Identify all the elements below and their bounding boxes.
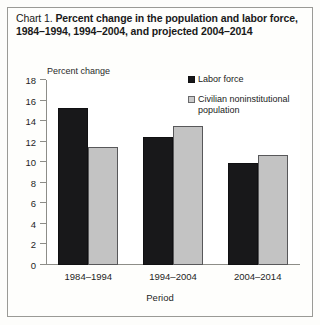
chart-title-text: Percent change in the population and lab… — [16, 12, 298, 37]
x-axis-tick-label: 1984–1994 — [65, 271, 113, 282]
bar — [228, 163, 258, 265]
y-axis-tick: 18 — [40, 79, 46, 80]
y-axis-tick: 12 — [40, 141, 46, 142]
chart-title: Chart 1. Percent change in the populatio… — [16, 12, 298, 39]
bar — [58, 108, 88, 265]
x-axis-tick-label: 1994–2004 — [149, 271, 197, 282]
legend-item-label: Labor force — [198, 74, 244, 85]
y-axis-tick: 0 — [40, 264, 46, 265]
y-axis-tick-label: 0 — [31, 260, 36, 271]
bar — [143, 137, 173, 265]
y-axis-tick-label: 8 — [31, 177, 36, 188]
y-axis-tick: 6 — [40, 202, 46, 203]
y-axis-tick: 16 — [40, 100, 46, 101]
y-axis-tick-label: 14 — [25, 116, 36, 127]
bar-group: 1984–1994 — [58, 80, 118, 265]
y-axis-tick-label: 16 — [25, 95, 36, 106]
y-axis-tick: 8 — [40, 182, 46, 183]
y-axis-tick: 4 — [40, 223, 46, 224]
y-axis-tick-label: 6 — [31, 198, 36, 209]
gray-square-icon — [188, 96, 195, 103]
y-axis-tick-label: 12 — [25, 136, 36, 147]
chart-title-label: Chart 1. — [16, 12, 53, 24]
y-axis-tick-label: 4 — [31, 218, 36, 229]
y-axis-tick: 10 — [40, 161, 46, 162]
black-square-icon — [188, 76, 195, 83]
bar — [258, 155, 288, 265]
y-axis-tick: 14 — [40, 120, 46, 121]
y-axis-label: Percent change — [47, 66, 110, 76]
y-axis-tick-label: 18 — [25, 75, 36, 86]
x-axis-label: Period — [0, 292, 320, 303]
x-axis-tick-label: 2004–2014 — [234, 271, 282, 282]
y-axis-tick-label: 2 — [31, 239, 36, 250]
legend-item: Labor force — [188, 74, 304, 85]
bar — [88, 147, 118, 265]
legend-item: Civilian noninstitutional population — [188, 94, 304, 116]
y-axis-tick-label: 10 — [25, 157, 36, 168]
chart-legend: Labor forceCivilian noninstitutional pop… — [188, 74, 304, 125]
y-axis-tick: 2 — [40, 243, 46, 244]
bar — [173, 126, 203, 265]
legend-item-label: Civilian noninstitutional population — [198, 94, 304, 116]
chart-figure: Chart 1. Percent change in the populatio… — [0, 0, 320, 325]
